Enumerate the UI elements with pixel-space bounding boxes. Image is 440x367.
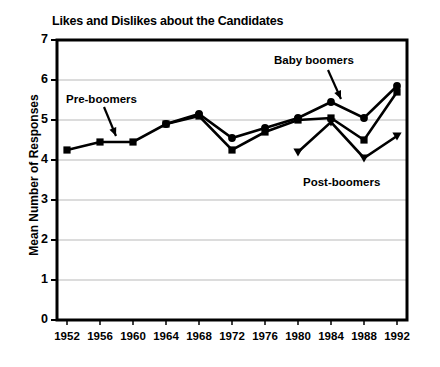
annotation-pre-boomers: Pre-boomers — [66, 93, 137, 105]
annotation-post-boomers: Post-boomers — [303, 176, 380, 188]
annotation-baby-boomers: Baby boomers — [274, 54, 354, 66]
chart-page: Likes and Dislikes about the Candidates … — [0, 0, 440, 367]
